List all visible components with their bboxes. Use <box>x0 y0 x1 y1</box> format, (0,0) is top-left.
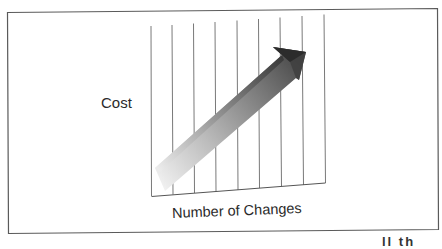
grid-baseline <box>152 183 326 197</box>
rising-arrow-icon <box>155 47 306 191</box>
cutoff-caption-text: ll th <box>382 234 415 249</box>
y-axis-label: Cost <box>101 94 132 111</box>
